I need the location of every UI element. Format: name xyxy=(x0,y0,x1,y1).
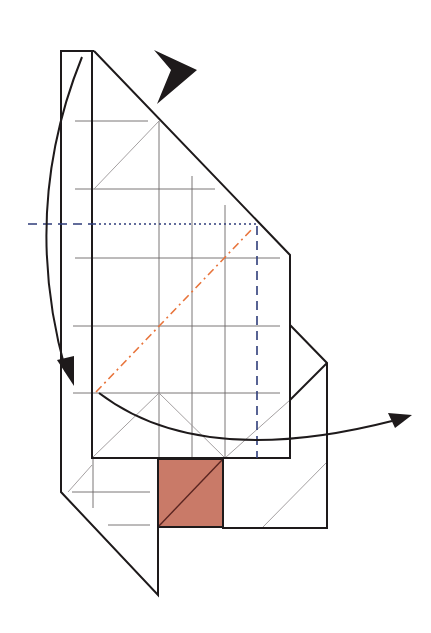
fold-right-arrow-icon xyxy=(99,393,412,440)
fold-down-arrow-icon xyxy=(46,57,82,386)
push-arrow-icon xyxy=(154,50,197,104)
colored-square xyxy=(158,459,223,527)
mountain-fold-diagonal xyxy=(96,228,253,392)
origami-diagram xyxy=(0,0,431,633)
